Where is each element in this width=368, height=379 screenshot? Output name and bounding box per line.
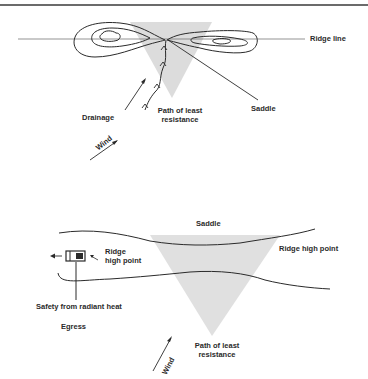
path-of-least-resistance-label-top: Path of least resistance	[150, 106, 210, 124]
wind-arrowhead-icon	[167, 336, 172, 342]
shaded-path-region-top	[130, 22, 212, 98]
saddle-label-bottom: Saddle	[196, 219, 221, 228]
drainage-arrowhead-icon	[141, 78, 146, 84]
safety-label: Safety from radiant heat	[36, 302, 122, 311]
ridge-line-label: Ridge line	[310, 34, 346, 43]
drainage-label: Drainage	[82, 113, 114, 122]
vehicle-icon-detail	[76, 253, 83, 259]
saddle-label-top: Saddle	[251, 104, 276, 113]
drainage-arrow	[125, 80, 145, 110]
contour-left-inner	[100, 31, 120, 42]
path-of-least-resistance-label-bottom: Path of least resistance	[186, 341, 248, 359]
shaded-path-region-bottom	[150, 235, 280, 336]
diagram-canvas	[0, 0, 368, 379]
egress-arrowhead-icon	[50, 254, 55, 259]
ridge-high-point-right-label: Ridge high point	[279, 244, 338, 253]
ridge-high-point-left-label: Ridge high point	[105, 247, 141, 265]
egress-label: Egress	[61, 322, 86, 331]
